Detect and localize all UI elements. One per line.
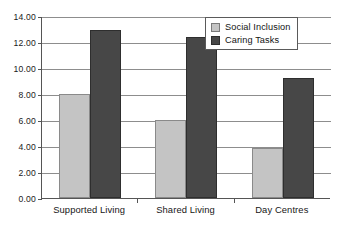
y-axis-tick-label: 12.00 [13,38,36,48]
bar-social-inclusion-day-centres[interactable] [252,148,283,198]
legend-swatch-icon-social-inclusion [211,23,220,32]
legend-label-caring-tasks: Caring Tasks [225,35,279,45]
legend-swatch-icon-caring-tasks [211,36,220,45]
x-axis-label-supported-living: Supported Living [53,204,125,215]
y-axis-tick-label: 14.00 [13,12,36,22]
x-axis-label-shared-living: Shared Living [156,204,215,215]
y-axis-tick-mark [38,199,42,200]
bar-caring-tasks-shared-living[interactable] [186,37,217,198]
y-axis-tick-label: 6.00 [18,116,36,126]
y-axis-tick-label: 4.00 [18,142,36,152]
x-axis-tick-mark [137,199,138,203]
bar-social-inclusion-supported-living[interactable] [59,94,90,198]
y-axis-tick-label: 10.00 [13,64,36,74]
legend-item-social-inclusion[interactable]: Social Inclusion [211,22,290,32]
bar-caring-tasks-day-centres[interactable] [283,78,314,198]
y-axis-tick-label: 2.00 [18,168,36,178]
legend-label-social-inclusion: Social Inclusion [225,22,290,32]
chart-legend: Social Inclusion Caring Tasks [205,17,298,50]
x-axis-label-day-centres: Day Centres [255,204,308,215]
bar-group [42,17,138,198]
legend-item-caring-tasks[interactable]: Caring Tasks [211,35,290,45]
bar-social-inclusion-shared-living[interactable] [155,120,186,198]
y-axis-tick-label: 0.00 [18,194,36,204]
y-axis-tick-label: 8.00 [18,90,36,100]
x-axis-tick-mark [234,199,235,203]
bar-chart: 0.002.004.006.008.0010.0012.0014.00 Soci… [0,0,347,232]
bar-caring-tasks-supported-living[interactable] [90,30,121,198]
